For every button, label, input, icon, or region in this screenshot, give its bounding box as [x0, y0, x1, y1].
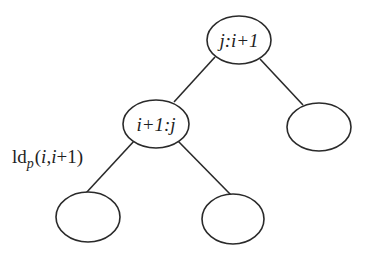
- edge-left-child-to-left-leaf: [86, 140, 135, 193]
- node-root: j:i+1: [207, 16, 271, 64]
- node-left-left-leaf-ellipse: [56, 192, 120, 242]
- node-left-child-label: i+1:j: [136, 114, 175, 135]
- edge-root-to-left-child: [174, 57, 215, 102]
- edge-label-subscript: p: [26, 156, 34, 171]
- node-left-child: i+1:j: [123, 100, 189, 148]
- edge-left-child-to-right-leaf: [177, 140, 231, 195]
- edge-root-to-right-child: [260, 59, 303, 105]
- edge-label-close-paren: ): [77, 146, 83, 168]
- edge-label-ldp: ldp(i,i+1): [12, 146, 83, 171]
- node-left-left-leaf: [56, 192, 120, 242]
- node-right-child-ellipse: [287, 103, 351, 151]
- edge-label-prefix: ld: [12, 146, 27, 167]
- node-root-label: j:i+1: [216, 30, 258, 51]
- node-left-right-leaf: [202, 194, 264, 244]
- edge-label-plus-one: +1: [56, 146, 76, 167]
- node-left-right-leaf-ellipse: [202, 194, 264, 244]
- tree-diagram: j:i+1 i+1:j ldp(i,i+1): [0, 0, 366, 263]
- node-right-child: [287, 103, 351, 151]
